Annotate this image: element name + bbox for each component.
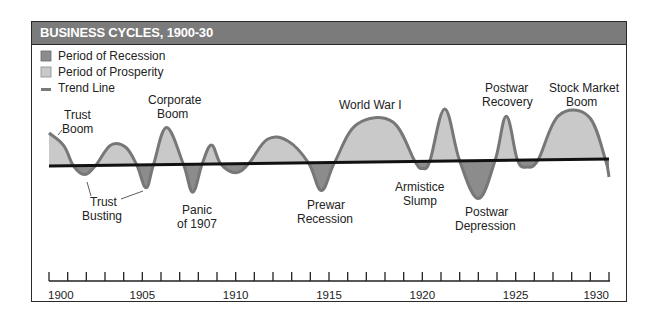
- svg-text:of 1907: of 1907: [177, 217, 217, 231]
- svg-text:Postwar: Postwar: [485, 81, 528, 95]
- business-cycle-curve: [49, 109, 609, 199]
- axis-tick-label: 1925: [503, 289, 529, 301]
- svg-text:Armistice: Armistice: [395, 180, 445, 194]
- axis-tick-label: 1910: [223, 289, 249, 301]
- legend-label-prosperity: Period of Prosperity: [58, 65, 163, 79]
- svg-text:Busting: Busting: [82, 209, 122, 223]
- label-stock-market-boom: Stock Market Boom: [549, 81, 620, 109]
- axis-tick-labels: 1900190519101915192019251930: [48, 289, 609, 301]
- label-world-war-i: World War I: [339, 98, 402, 112]
- svg-text:Recession: Recession: [297, 212, 353, 226]
- label-trust-busting: Trust Busting: [82, 182, 143, 223]
- prosperity-swatch-icon: [41, 67, 51, 77]
- axis-tick-label: 1900: [48, 289, 74, 301]
- svg-text:Stock Market: Stock Market: [549, 81, 620, 95]
- label-trust-boom: Trust Boom: [58, 108, 93, 136]
- label-postwar-depression: Postwar Depression: [455, 205, 516, 233]
- svg-text:Panic: Panic: [182, 203, 212, 217]
- svg-text:Prewar: Prewar: [307, 198, 345, 212]
- axis-tick-label: 1905: [130, 289, 156, 301]
- legend: Period of Recession Period of Prosperity…: [41, 49, 165, 95]
- axis-ticks: [49, 272, 609, 281]
- label-corporate-boom: Corporate Boom: [148, 93, 202, 121]
- legend-label-recession: Period of Recession: [58, 49, 165, 63]
- legend-item-prosperity: Period of Prosperity: [41, 65, 163, 79]
- axis-tick-label: 1930: [583, 289, 609, 301]
- axis-tick-label: 1915: [316, 289, 342, 301]
- label-prewar-recession: Prewar Recession: [297, 198, 353, 226]
- legend-label-trend: Trend Line: [58, 81, 115, 95]
- legend-item-trend: Trend Line: [41, 81, 115, 95]
- label-panic-1907: Panic of 1907: [177, 203, 217, 231]
- svg-text:Boom: Boom: [157, 107, 188, 121]
- axis-tick-label: 1920: [410, 289, 436, 301]
- svg-text:Depression: Depression: [455, 219, 516, 233]
- label-armistice-slump: Armistice Slump: [395, 180, 445, 208]
- cycle-areas: [49, 109, 609, 199]
- svg-text:Boom: Boom: [566, 95, 597, 109]
- legend-item-recession: Period of Recession: [41, 49, 165, 63]
- svg-text:Corporate: Corporate: [148, 93, 202, 107]
- label-postwar-recovery: Postwar Recovery: [482, 81, 533, 109]
- svg-text:Slump: Slump: [403, 194, 437, 208]
- trend-line-swatch-icon: [41, 88, 51, 91]
- time-axis: 1900190519101915192019251930: [48, 272, 610, 301]
- recession-area: [49, 109, 609, 199]
- svg-text:Boom: Boom: [62, 122, 93, 136]
- prosperity-area: [49, 109, 609, 199]
- svg-text:Postwar: Postwar: [465, 205, 508, 219]
- svg-text:Trust: Trust: [90, 195, 118, 209]
- svg-text:Recovery: Recovery: [482, 95, 533, 109]
- recession-swatch-icon: [41, 51, 51, 61]
- svg-text:Trust: Trust: [64, 108, 92, 122]
- business-cycle-chart: Period of Recession Period of Prosperity…: [0, 0, 661, 324]
- svg-text:World War I: World War I: [339, 98, 402, 112]
